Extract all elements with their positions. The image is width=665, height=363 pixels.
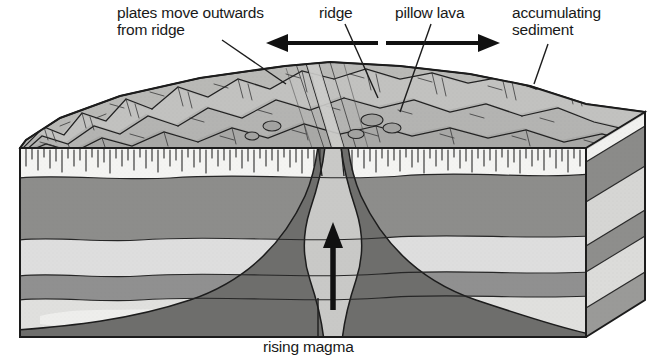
block-diagram-figure: plates move outwards from ridge ridge pi… [0,0,665,363]
ridge-diagram-svg [0,0,665,363]
label-accumulating-sediment: accumulating sediment [512,4,601,38]
block-front-face [18,146,590,341]
label-rising-magma: rising magma [263,338,354,355]
label-ridge: ridge [319,4,352,21]
label-pillow-lava: pillow lava [395,4,464,21]
label-plates-move-outwards: plates move outwards from ridge [117,4,264,38]
